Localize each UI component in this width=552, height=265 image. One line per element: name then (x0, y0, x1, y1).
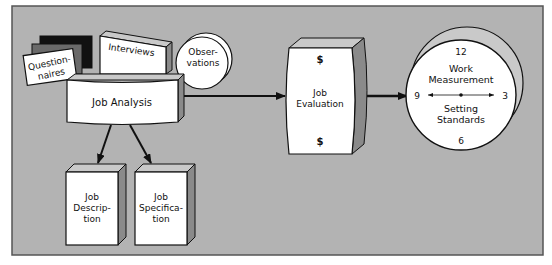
job-specification-top-face (135, 164, 195, 172)
job-specification-box: Job Specifica- tion (135, 164, 195, 245)
observations-label-line2: vations (187, 58, 220, 68)
setting-standards-label-line1: Setting (444, 103, 478, 114)
interviews-side-face (166, 42, 172, 74)
job-description-box: Job Descrip- tion (66, 164, 126, 245)
setting-standards-label-line2: Standards (437, 114, 485, 125)
job-evaluation-box: $ Job Evaluation $ (286, 38, 367, 154)
job-specification-side-face (187, 164, 195, 245)
clock-number-6: 6 (458, 136, 464, 146)
dollar-icon-bottom: $ (317, 136, 324, 147)
job-analysis-side-face (178, 74, 184, 122)
job-evaluation-label-line2: Evaluation (296, 99, 344, 109)
job-description-top-face (66, 164, 126, 172)
job-specification-label-line2: Specifica- (139, 203, 183, 213)
observations-label-line1: Obser- (188, 47, 217, 57)
work-measurement-label-line1: Work (449, 63, 474, 74)
job-specification-label-line1: Job (153, 192, 168, 202)
job-analysis-diagram: Question- naires Interviews Obser- vatio… (0, 0, 552, 265)
clock-number-9: 9 (414, 91, 420, 101)
job-analysis-label: Job Analysis (91, 97, 152, 108)
job-specification-label-line3: tion (152, 214, 169, 224)
work-measurement-label-line2: Measurement (428, 74, 493, 85)
job-description-label-line1: Job (84, 192, 99, 202)
job-evaluation-label-line1: Job (312, 88, 327, 98)
job-description-label-line2: Descrip- (73, 203, 110, 213)
job-evaluation-top-face (289, 38, 364, 48)
clock-number-3: 3 (502, 91, 508, 101)
clock-center-dot (459, 93, 463, 97)
clock-number-12: 12 (455, 47, 466, 57)
job-description-side-face (118, 164, 126, 245)
job-analysis-top-face (67, 74, 184, 80)
job-description-label-line3: tion (83, 214, 100, 224)
dollar-icon-top: $ (317, 54, 324, 65)
